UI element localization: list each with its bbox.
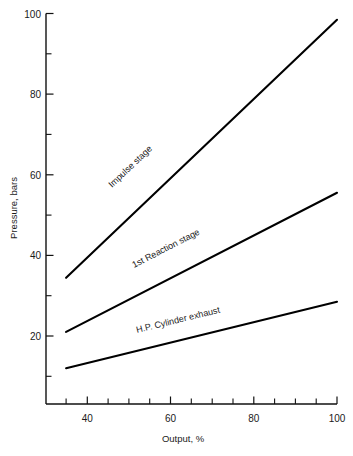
y-axis-minor-ticks [46,54,52,377]
x-tick-label-40: 40 [82,413,94,424]
x-tick-label-100: 100 [329,413,346,424]
x-tick-label-80: 80 [248,413,260,424]
x-tick-label-60: 60 [165,413,177,424]
y-tick-label-100: 100 [24,9,41,20]
y-tick-label-60: 60 [30,170,42,181]
series-line-impulse-stage [66,20,337,278]
x-axis-minor-ticks [66,399,316,405]
y-tick-label-40: 40 [30,250,42,261]
y-tick-label-20: 20 [30,331,42,342]
y-axis-tick-labels: 100 80 60 40 20 [24,9,41,343]
series-label-1st-reaction-stage: 1st Reaction stage [130,227,201,270]
y-axis-major-ticks [46,14,54,337]
series-label-hp-cylinder-exhaust: H.P. Cylinder exhaust [135,305,221,335]
y-axis-title: Pressure, bars [8,177,19,239]
x-axis-title: Output, % [162,433,205,444]
y-tick-label-80: 80 [30,89,42,100]
axis-lines [46,14,337,405]
x-axis-tick-labels: 40 60 80 100 [82,413,346,424]
figure-container: 100 80 60 40 20 40 60 80 100 Output, % P… [0,0,353,456]
series-label-impulse-stage: Impulse stage [106,144,153,190]
pressure-vs-output-chart: 100 80 60 40 20 40 60 80 100 Output, % P… [0,0,353,456]
